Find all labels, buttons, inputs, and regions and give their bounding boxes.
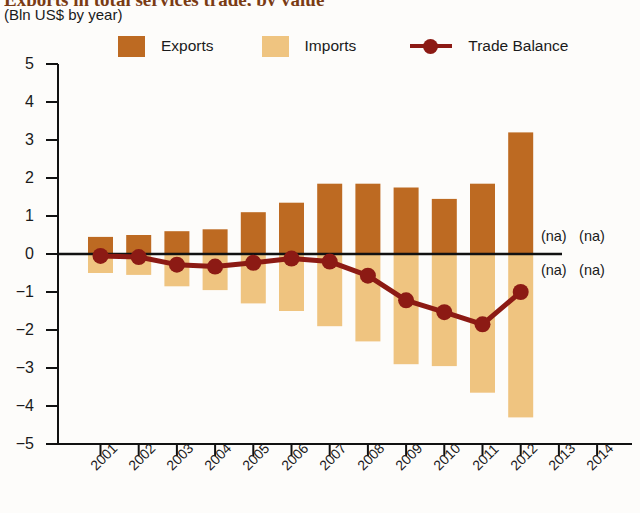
trade-balance-point: [513, 284, 529, 300]
bar-exports: [432, 199, 457, 254]
plot-svg: [0, 0, 640, 513]
plot-area: 543210−1−2−3−4−5 20012002200320042005200…: [0, 0, 640, 513]
trade-balance-point: [436, 304, 452, 320]
bar-exports: [317, 184, 342, 254]
y-axis-tick-label: 0: [8, 245, 34, 263]
bar-exports: [508, 132, 533, 254]
y-axis-tick-label: 2: [8, 169, 34, 187]
trade-balance-point: [169, 257, 185, 273]
na-annotation: (na): [541, 228, 567, 244]
bar-imports: [394, 254, 419, 364]
bar-exports: [164, 231, 189, 254]
y-axis-tick-label: 4: [8, 93, 34, 111]
trade-balance-point: [245, 255, 261, 271]
y-axis-tick-label: −5: [8, 435, 34, 453]
trade-balance-point: [322, 254, 338, 270]
trade-balance-point: [398, 292, 414, 308]
trade-balance-point: [284, 251, 300, 267]
y-axis-tick-label: −3: [8, 359, 34, 377]
y-axis-tick-label: −4: [8, 397, 34, 415]
trade-balance-point: [131, 249, 147, 265]
trade-balance-point: [360, 268, 376, 284]
trade-balance-line: [101, 256, 521, 324]
bar-exports: [241, 212, 266, 254]
na-annotation: (na): [541, 262, 567, 278]
na-annotation: (na): [579, 262, 605, 278]
y-axis-tick-label: −2: [8, 321, 34, 339]
trade-balance-point: [475, 316, 491, 332]
y-axis-tick-label: 5: [8, 55, 34, 73]
bar-exports: [203, 229, 228, 254]
y-axis-tick-label: 3: [8, 131, 34, 149]
trade-balance-point: [207, 259, 223, 275]
y-axis-tick-label: 1: [8, 207, 34, 225]
bar-exports: [470, 184, 495, 254]
bar-exports: [355, 184, 380, 254]
y-axis-tick-label: −1: [8, 283, 34, 301]
bar-exports: [394, 188, 419, 255]
bar-imports: [355, 254, 380, 341]
bar-imports: [508, 254, 533, 417]
na-annotation: (na): [579, 228, 605, 244]
chart-container: Exports in total services trade, by valu…: [0, 0, 640, 513]
trade-balance-point: [93, 248, 109, 264]
bar-exports: [279, 203, 304, 254]
